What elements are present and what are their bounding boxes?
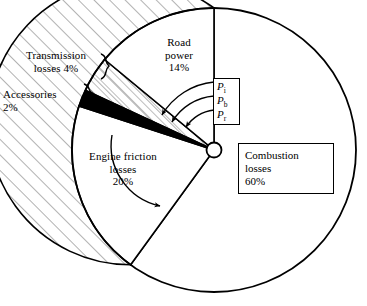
power-symbol-road-subscript: r (224, 114, 227, 123)
pie-center-hub (207, 143, 222, 158)
label-transmission-losses: Transmission losses 4% (8, 49, 104, 74)
power-symbol-indicated: Pi (217, 80, 226, 95)
power-symbol-road-letter: P (217, 108, 224, 120)
label-road-power: Road power 14% (148, 36, 210, 74)
power-symbol-brake: Pb (217, 94, 227, 109)
label-engine-friction-losses: Engine friction losses 20% (73, 150, 173, 188)
power-symbol-brake-letter: P (217, 94, 224, 106)
label-accessories: Accessories 2% (3, 88, 93, 113)
power-symbol-indicated-letter: P (217, 80, 224, 92)
combustion-losses-callout-box: Combustion losses 60% (238, 143, 334, 194)
label-combustion-losses: Combustion losses 60% (245, 149, 299, 188)
pie-chart-figure: Road power 14% Transmission losses 4% Ac… (0, 0, 367, 306)
power-symbols-box: Pi Pb Pr (213, 78, 240, 125)
power-symbol-road: Pr (217, 108, 226, 123)
